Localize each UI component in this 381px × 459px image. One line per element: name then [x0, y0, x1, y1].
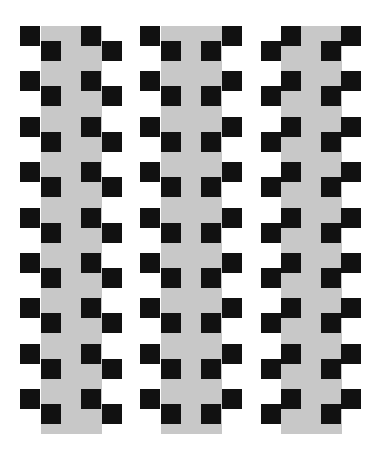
black-square	[261, 268, 281, 288]
black-square	[41, 41, 61, 61]
black-square	[222, 253, 242, 273]
black-square	[261, 359, 281, 379]
black-square	[41, 313, 61, 333]
black-square	[20, 253, 40, 273]
black-square	[281, 26, 301, 46]
black-square	[321, 268, 341, 288]
black-square	[41, 132, 61, 152]
black-square	[222, 389, 242, 409]
black-square	[222, 162, 242, 182]
black-square	[102, 132, 122, 152]
black-square	[81, 253, 101, 273]
black-square	[140, 298, 160, 318]
black-square	[140, 389, 160, 409]
black-square	[161, 86, 181, 106]
black-square	[140, 253, 160, 273]
black-square	[161, 177, 181, 197]
black-square	[20, 117, 40, 137]
black-square	[222, 208, 242, 228]
black-square	[341, 71, 361, 91]
black-square	[81, 344, 101, 364]
black-square	[341, 389, 361, 409]
black-square	[41, 404, 61, 424]
black-square	[102, 404, 122, 424]
black-square	[81, 208, 101, 228]
black-square	[140, 208, 160, 228]
black-square	[20, 344, 40, 364]
black-square	[161, 404, 181, 424]
black-square	[281, 117, 301, 137]
black-square	[102, 359, 122, 379]
black-square	[161, 268, 181, 288]
black-square	[341, 162, 361, 182]
black-square	[281, 253, 301, 273]
black-square	[20, 389, 40, 409]
black-square	[20, 26, 40, 46]
black-square	[261, 177, 281, 197]
black-square	[140, 26, 160, 46]
black-square	[102, 268, 122, 288]
black-square	[261, 313, 281, 333]
black-square	[81, 298, 101, 318]
black-square	[321, 313, 341, 333]
black-square	[41, 177, 61, 197]
black-square	[341, 253, 361, 273]
black-square	[161, 132, 181, 152]
black-square	[102, 313, 122, 333]
black-square	[41, 223, 61, 243]
black-square	[102, 86, 122, 106]
black-square	[261, 223, 281, 243]
black-square	[140, 117, 160, 137]
black-square	[341, 344, 361, 364]
black-square	[321, 132, 341, 152]
black-square	[341, 117, 361, 137]
black-square	[102, 223, 122, 243]
black-square	[321, 223, 341, 243]
black-square	[281, 162, 301, 182]
black-square	[81, 162, 101, 182]
black-square	[201, 41, 221, 61]
black-square	[81, 26, 101, 46]
black-square	[281, 344, 301, 364]
black-square	[261, 41, 281, 61]
black-square	[261, 404, 281, 424]
black-square	[281, 71, 301, 91]
black-square	[81, 117, 101, 137]
black-square	[281, 389, 301, 409]
black-square	[20, 162, 40, 182]
black-square	[201, 132, 221, 152]
black-square	[102, 177, 122, 197]
black-square	[41, 359, 61, 379]
black-square	[281, 208, 301, 228]
black-square	[341, 298, 361, 318]
black-square	[41, 86, 61, 106]
black-square	[41, 268, 61, 288]
black-square	[321, 86, 341, 106]
black-square	[20, 71, 40, 91]
black-square	[140, 71, 160, 91]
black-square	[341, 26, 361, 46]
black-square	[321, 359, 341, 379]
black-square	[341, 208, 361, 228]
black-square	[281, 298, 301, 318]
black-square	[140, 344, 160, 364]
black-square	[201, 313, 221, 333]
black-square	[81, 389, 101, 409]
black-square	[261, 132, 281, 152]
black-square	[201, 223, 221, 243]
black-square	[20, 298, 40, 318]
black-square	[161, 41, 181, 61]
black-square	[201, 268, 221, 288]
black-square	[20, 208, 40, 228]
black-square	[261, 86, 281, 106]
black-square	[321, 404, 341, 424]
black-square	[201, 359, 221, 379]
black-square	[201, 177, 221, 197]
black-square	[321, 41, 341, 61]
black-square	[222, 117, 242, 137]
black-square	[201, 404, 221, 424]
black-square	[222, 344, 242, 364]
black-square	[222, 26, 242, 46]
black-square	[81, 71, 101, 91]
black-square	[140, 162, 160, 182]
